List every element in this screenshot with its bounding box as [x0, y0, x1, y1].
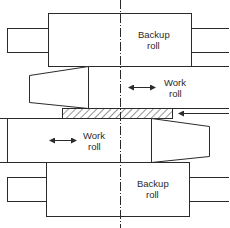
lower-backup-roll-label-line1: Backup — [137, 178, 169, 189]
workpiece-strip — [63, 109, 173, 119]
upper-work-roll-label-line1: Work — [164, 77, 186, 88]
upper-backup-roll-label-line1: Backup — [138, 29, 170, 40]
upper-backup-roll — [8, 14, 230, 67]
rolling-mill-diagram: Backup roll Work roll Work roll Backup r… — [0, 0, 229, 228]
upper-work-roll-label-line2: roll — [169, 88, 182, 99]
lower-backup-roll-label-line2: roll — [146, 189, 159, 200]
lower-work-roll-label-line1: Work — [83, 130, 105, 141]
upper-backup-roll-label-line2: roll — [147, 40, 160, 51]
lower-backup-roll — [8, 163, 230, 217]
lower-work-roll-label-line2: roll — [88, 141, 101, 152]
